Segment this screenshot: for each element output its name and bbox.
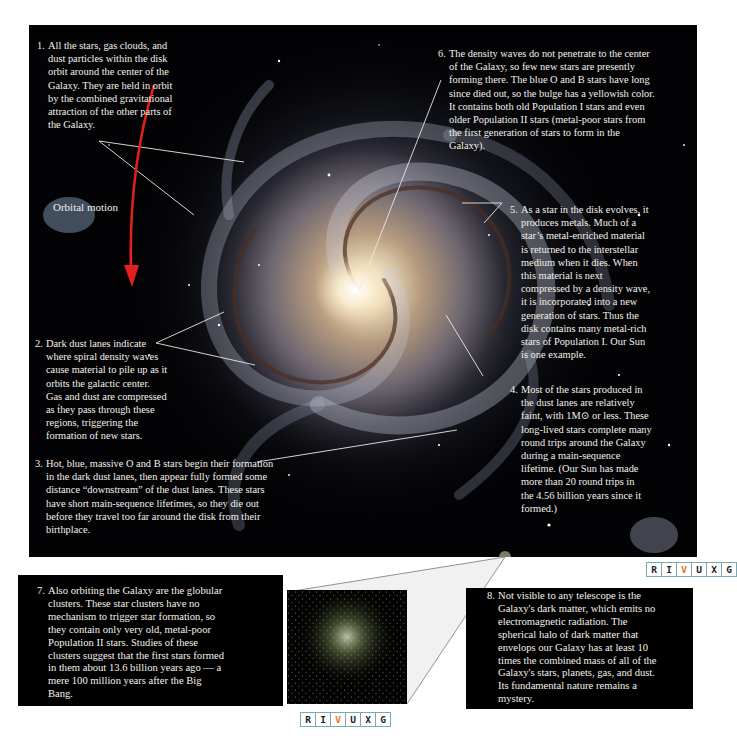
callout-1: 1. All the stars, gas clouds, and dust p… [48,39,228,131]
callout-line: before they travel too far around the di… [46,510,336,523]
badge-letter-u: U [346,713,361,726]
badge-letter-i: I [316,713,331,726]
callout-line: dust particles within the disk [48,52,228,65]
callout-line: envelops our Galaxy has at least 10 [498,642,693,655]
callout-line: in them about 13.6 billion years ago — a [48,662,278,675]
callout-line: is one example. [521,348,691,361]
callout-number: 4. [510,383,518,396]
callout-line: star’s metal-enriched material [521,229,691,242]
callout-line: cause material to pile up as it [46,363,206,376]
callout-line: Most of the stars produced in [521,383,691,396]
callout-line: compressed by a density wave, [521,282,691,295]
badge-letter-x: X [361,713,376,726]
callout-line: spherical halo of dark matter that [498,629,693,642]
callout-8: 8. Not visible to any telescope is the G… [498,590,693,706]
callout-line: in the dark dust lanes, then appear full… [46,470,336,483]
callout-line: more than 20 round trips in [521,475,691,488]
callout-line: it is incorporated into a new [521,295,691,308]
callout-line: long-lived stars complete many [521,423,691,436]
callout-line: since died out, so the bulge has a yello… [449,87,689,100]
callout-line: Galaxy). [449,139,689,152]
callout-line: clusters suggest that the first stars fo… [48,650,278,663]
callout-line: Not visible to any telescope is the [498,590,693,603]
callout-line: by the combined gravitational [48,92,228,105]
callout-line: Dark dust lanes indicate [46,337,206,350]
callout-line: the first generation of stars to form in… [449,126,689,139]
callout-line: stars of Population I. Our Sun [521,335,691,348]
callout-line: round trips around the Galaxy [521,436,691,449]
badge-letter-x: X [707,563,722,576]
callout-line: older Population II stars (metal-poor st… [449,113,689,126]
callout-line: Population II stars. Studies of these [48,637,278,650]
callout-line: Hot, blue, massive O and B stars begin t… [46,457,336,470]
callout-line: formed.) [521,502,691,515]
callout-number: 7. [37,585,45,598]
callout-number: 1. [37,39,45,52]
globular-cluster-textbox: 7. Also orbiting the Galaxy are the glob… [18,575,283,706]
callout-line: where spiral density waves [46,350,206,363]
badge-letter-u: U [692,563,707,576]
callout-6: 6. The density waves do not penetrate to… [449,47,689,153]
callout-line: Its fundamental nature remains a [498,680,693,693]
callout-number: 6. [438,47,446,60]
callout-line: the 4.56 billion years since it [521,489,691,502]
callout-line: of the Galaxy, so few new stars are pres… [449,60,689,73]
callout-line: the dust lanes are relatively [521,396,691,409]
callout-line: mechanism to trigger star formation, so [48,611,278,624]
badge-letter-g: G [722,563,736,576]
orbital-motion-label: Orbital motion [53,201,118,213]
badge-letter-r: R [301,713,316,726]
callout-line: this material is next [521,269,691,282]
callout-line: mystery. [498,693,693,706]
callout-line: birthplace. [46,523,336,536]
callout-line: times the combined mass of all of the [498,655,693,668]
galaxy-image-panel: Orbital motion 1. All the stars, gas clo… [29,25,697,557]
callout-line: generation of stars. Thus the [521,309,691,322]
callout-line: regions, triggering the [46,416,206,429]
callout-line: disk contains many metal-rich [521,322,691,335]
callout-7: 7. Also orbiting the Galaxy are the glob… [48,585,278,701]
callout-line: as they pass through these [46,403,206,416]
badge-letter-g: G [376,713,390,726]
callout-number: 5. [510,203,518,216]
callout-line: mere 100 million years after the Big [48,675,278,688]
callout-number: 3. [35,457,43,470]
callout-number: 8. [487,590,495,603]
callout-number: 2. [35,337,43,350]
callout-line: Galaxy's stars, planets, gas, and dust. [498,667,693,680]
callout-line: the Galaxy. [48,118,228,131]
callout-line: clusters. These star clusters have no [48,598,278,611]
callout-line: medium when it dies. When [521,256,691,269]
callout-line: Galaxy's dark matter, which emits no [498,603,693,616]
callout-2: 2. Dark dust lanes indicate where spiral… [46,337,206,443]
dark-matter-textbox: 8. Not visible to any telescope is the G… [466,588,693,709]
callout-line: attraction of the other parts of [48,105,228,118]
callout-line: faint, with 1M⊙ or less. These [521,409,691,422]
wavelength-badge-cluster: R I V U X G [300,712,391,727]
badge-letter-r: R [647,563,662,576]
callout-line: have short main-sequence lifetimes, so t… [46,497,336,510]
callout-line: The density waves do not penetrate to th… [449,47,689,60]
callout-line: It contains both old Population I stars … [449,100,689,113]
callout-line: orbits the galactic center. [46,377,206,390]
callout-line: orbit around the center of the [48,65,228,78]
callout-line: Galaxy. They are held in orbit [48,79,228,92]
callout-line: during a main-sequence [521,449,691,462]
callout-line: is returned to the interstellar [521,243,691,256]
callout-line: distance “downstream” of the dust lanes.… [46,483,336,496]
badge-letter-v: V [677,563,692,576]
callout-line: Also orbiting the Galaxy are the globula… [48,585,278,598]
callout-line: Gas and dust are compressed [46,390,206,403]
callout-line: they contain only very old, metal-poor [48,624,278,637]
callout-4: 4. Most of the stars produced in the dus… [521,383,691,515]
callout-line: lifetime. (Our Sun has made [521,462,691,475]
callout-line: produces metals. Much of a [521,216,691,229]
globular-cluster-image [287,590,407,704]
callout-line: electromagnetic radiation. The [498,616,693,629]
badge-letter-v: V [331,713,346,726]
callout-5: 5. As a star in the disk evolves, it pro… [521,203,691,361]
callout-line: As a star in the disk evolves, it [521,203,691,216]
badge-letter-i: I [662,563,677,576]
callout-line: forming there. The blue O and B stars ha… [449,73,689,86]
callout-3: 3. Hot, blue, massive O and B stars begi… [46,457,336,536]
